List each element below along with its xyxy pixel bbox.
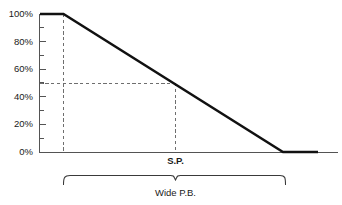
proportional-band-brace <box>64 176 286 185</box>
y-axis-ticks <box>40 14 47 138</box>
setpoint-label: S.P. <box>167 155 184 166</box>
y-tick-label-60: 60% <box>14 63 34 74</box>
y-tick-label-20: 20% <box>14 118 34 129</box>
y-tick-label-100: 100% <box>9 8 34 19</box>
proportional-band-label: Wide P.B. <box>155 187 196 198</box>
y-tick-label-0: 0% <box>19 146 33 157</box>
chart-container: 100% 80% 60% 40% 20% 0% <box>0 0 342 205</box>
guide-lines <box>40 14 176 152</box>
proportional-band-chart: 100% 80% 60% 40% 20% 0% <box>0 0 342 205</box>
y-tick-label-80: 80% <box>14 36 34 47</box>
axis-group <box>40 14 339 153</box>
y-tick-label-40: 40% <box>14 91 34 102</box>
